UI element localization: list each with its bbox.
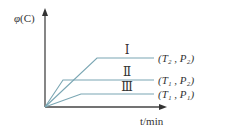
condition-I-label: (T₂ , P₂)	[158, 52, 194, 65]
axes	[42, 8, 167, 110]
x-axis-arrow-icon	[159, 104, 167, 110]
y-axis-label: φ(C)	[14, 12, 35, 25]
curves	[45, 58, 154, 107]
curve-III-label: Ⅲ	[121, 80, 133, 94]
y-axis-arrow-icon	[42, 8, 48, 16]
condition-II-label: (T₁ , P₂)	[158, 74, 194, 87]
chart: Ⅰ Ⅱ Ⅲ (T₂ , P₂) (T₁ , P₂) (T₁ , P₁) φ(C)…	[0, 0, 226, 131]
curve-III	[45, 94, 154, 107]
condition-III-label: (T₁ , P₁)	[158, 88, 194, 101]
x-axis-label: t/min	[140, 115, 164, 127]
curve-II-label: Ⅱ	[123, 65, 131, 79]
curve-I-label: Ⅰ	[125, 43, 130, 57]
